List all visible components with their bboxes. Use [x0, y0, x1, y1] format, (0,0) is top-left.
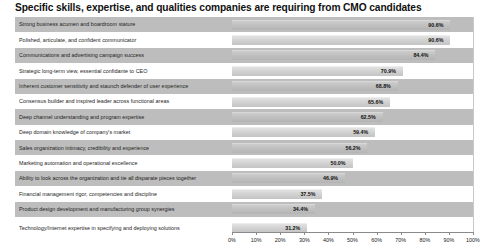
- bar-value-label: 90.6%: [428, 37, 443, 43]
- category-label: Technology/Internet expertise in specify…: [15, 217, 232, 240]
- x-axis-tick: [280, 232, 281, 235]
- bar-track: 65.6%: [232, 94, 473, 109]
- bar-value-label: 56.2%: [345, 145, 360, 151]
- x-axis-tick-label: 60%: [371, 237, 382, 243]
- x-axis-tick: [353, 232, 354, 235]
- bar: [232, 97, 390, 107]
- bar-value-label: 90.6%: [428, 22, 443, 28]
- category-label: Deep channel understanding and program e…: [15, 109, 232, 124]
- bar: [232, 20, 450, 30]
- x-axis-tick-label: 0%: [228, 237, 236, 243]
- bar-value-label: 62.5%: [361, 114, 376, 120]
- bar-value-label: 31.2%: [285, 225, 300, 231]
- bar-value-label: 46.9%: [323, 175, 338, 181]
- bar-row: Marketing automation and operational exc…: [15, 155, 473, 170]
- bar-track: 70.9%: [232, 63, 473, 78]
- x-axis-tick: [304, 232, 305, 235]
- bar-value-label: 84.4%: [413, 52, 428, 58]
- bar-track: 56.2%: [232, 140, 473, 155]
- category-label: Strong business acumen and boardroom sta…: [15, 17, 232, 32]
- x-axis-tick-label: 10%: [251, 237, 262, 243]
- gridline: [473, 17, 474, 232]
- x-axis-tick: [473, 232, 474, 235]
- category-label: Ability to look across the organization …: [15, 171, 232, 186]
- bar: [232, 66, 403, 76]
- bar-row: Consensus builder and inspired leader ac…: [15, 94, 473, 109]
- x-axis-tick-label: 90%: [443, 237, 454, 243]
- x-axis-tick-label: 100%: [466, 237, 480, 243]
- bar-track: 37.5%: [232, 186, 473, 201]
- bar: [232, 35, 450, 45]
- bar: [232, 81, 398, 91]
- category-label: Consensus builder and inspired leader ac…: [15, 94, 232, 109]
- x-axis-tick: [256, 232, 257, 235]
- bar-row: Ability to look across the organization …: [15, 171, 473, 186]
- x-axis-tick-label: 30%: [299, 237, 310, 243]
- bar-value-label: 59.4%: [353, 129, 368, 135]
- bar-row: Polished, articulate, and confident comm…: [15, 32, 473, 47]
- x-axis-tick-label: 20%: [275, 237, 286, 243]
- x-axis-tick: [425, 232, 426, 235]
- bar-track: 50.0%: [232, 155, 473, 170]
- bar-row: Product design development and manufactu…: [15, 202, 473, 217]
- x-axis-tick: [232, 232, 233, 235]
- category-label: Deep domain knowledge of company's marke…: [15, 125, 232, 140]
- bar-track: 90.6%: [232, 17, 473, 32]
- category-label: Sales organization intimacy, credibility…: [15, 140, 232, 155]
- bar-track: 84.4%: [232, 48, 473, 63]
- x-axis-tick: [377, 232, 378, 235]
- bar-value-label: 34.4%: [293, 206, 308, 212]
- chart-container: Specific skills, expertise, and qualitie…: [0, 0, 488, 251]
- bar-value-label: 37.5%: [300, 191, 315, 197]
- bar: [232, 50, 435, 60]
- plot-area: Strong business acumen and boardroom sta…: [15, 17, 473, 232]
- chart-title: Specific skills, expertise, and qualitie…: [15, 2, 475, 13]
- x-axis-tick-label: 70%: [395, 237, 406, 243]
- bar-track: 59.4%: [232, 125, 473, 140]
- bar-track: 68.8%: [232, 79, 473, 94]
- bar-row: Communications and advertising campaign …: [15, 48, 473, 63]
- bar-value-label: 68.8%: [376, 83, 391, 89]
- x-axis-tick-label: 40%: [323, 237, 334, 243]
- category-label: Inherent customer sensitivity and staunc…: [15, 79, 232, 94]
- bar-value-label: 65.6%: [368, 99, 383, 105]
- category-label: Marketing automation and operational exc…: [15, 155, 232, 170]
- bar-value-label: 50.0%: [331, 160, 346, 166]
- x-axis-tick: [401, 232, 402, 235]
- category-label: Polished, articulate, and confident comm…: [15, 32, 232, 47]
- category-label: Strategic long-term view, essential conf…: [15, 63, 232, 78]
- bar-track: 34.4%: [232, 202, 473, 217]
- x-axis-tick: [449, 232, 450, 235]
- category-label: Financial management rigor, competencies…: [15, 186, 232, 201]
- bar-track: 62.5%: [232, 109, 473, 124]
- bar-row: Deep channel understanding and program e…: [15, 109, 473, 124]
- bar-row: Inherent customer sensitivity and staunc…: [15, 79, 473, 94]
- x-axis-tick-label: 50%: [347, 237, 358, 243]
- bar-value-label: 70.9%: [381, 68, 396, 74]
- bar-row: Sales organization intimacy, credibility…: [15, 140, 473, 155]
- bar-row: Deep domain knowledge of company's marke…: [15, 125, 473, 140]
- x-axis-tick: [328, 232, 329, 235]
- x-axis-tick-label: 80%: [419, 237, 430, 243]
- category-label: Product design development and manufactu…: [15, 202, 232, 217]
- category-label: Communications and advertising campaign …: [15, 48, 232, 63]
- x-axis: 0%10%20%30%40%50%60%70%80%90%100%: [232, 232, 473, 251]
- bar-row: Strategic long-term view, essential conf…: [15, 63, 473, 78]
- bar-track: 46.9%: [232, 171, 473, 186]
- bar-row: Financial management rigor, competencies…: [15, 186, 473, 201]
- bar-row: Strong business acumen and boardroom sta…: [15, 17, 473, 32]
- bar-track: 90.6%: [232, 32, 473, 47]
